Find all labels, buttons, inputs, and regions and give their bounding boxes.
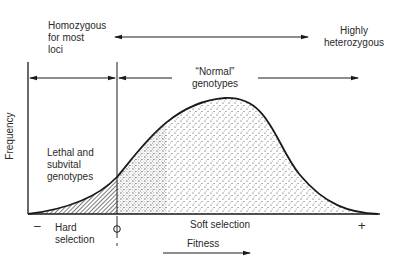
plus-sign: + (358, 220, 366, 232)
fitness-label: Fitness (187, 238, 219, 250)
soft-selection-label: Soft selection (190, 219, 250, 231)
y-axis-label: Frequency (4, 108, 16, 164)
homozygous-label: Homozygous for most loci (48, 20, 106, 56)
lethal-genotypes-label: Lethal and subvital genotypes (47, 147, 94, 183)
heterozygous-label: Highly heterozygous (318, 25, 390, 49)
hard-selection-label: Hard selection (55, 222, 94, 246)
normal-genotypes-label: “Normal” genotypes (172, 66, 258, 90)
minus-sign: – (34, 220, 41, 232)
